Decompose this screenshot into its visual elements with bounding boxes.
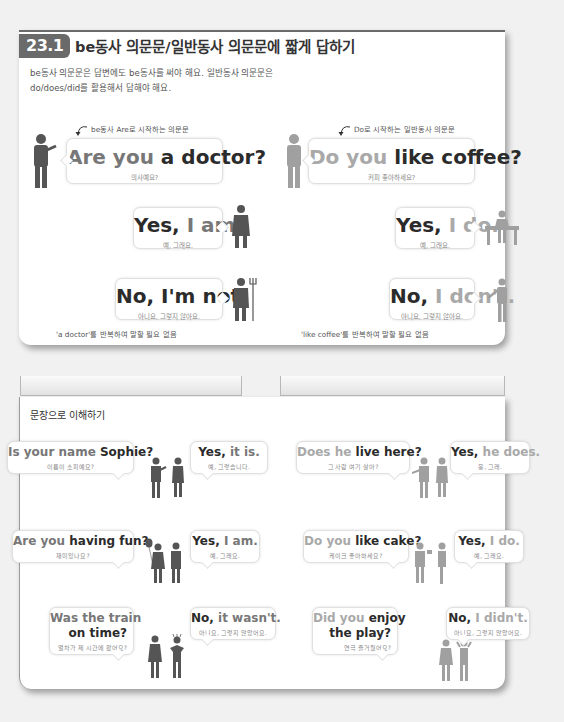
intro-line-1: be동사 의문문은 답변에도 be동사를 써야 해요. 일반동사 의문문은 (30, 66, 273, 81)
question-bubble-be: Are you a doctor? 의사예요? (66, 138, 223, 184)
question-translation: 커피 좋아하세요? (309, 172, 474, 182)
woman-angry-figure-icon (147, 634, 187, 682)
answer-bold: No, (390, 284, 435, 308)
answer-bold: Yes, (134, 213, 187, 237)
answer-no-bubble-be: No, I'm not. 아니요, 그렇지 않아요. (115, 278, 223, 320)
answer-translation: 예, 그렇습니다. (191, 462, 267, 471)
question-bold: enjoy (369, 611, 406, 625)
question-gray: Was the train (50, 611, 141, 625)
question-translation: 의사예요? (67, 172, 222, 182)
question-gray: Do you (309, 145, 394, 169)
practice-question-bubble-1: Is your name Sophie? 이름이 소피예요? (7, 441, 134, 474)
practice-answer-bubble-3: Yes, I am. 예, 그래요. (190, 530, 260, 563)
answer-bold: No, (448, 611, 475, 625)
no-repeat-note-be: 'a doctor'를 반복하여 말할 필요 없음 (56, 329, 177, 339)
man-woman-figure-icon (148, 457, 188, 501)
question-gray: Does he (297, 445, 356, 459)
note-text: 'like coffee'를 반복하여 말할 필요 없음 (301, 330, 429, 339)
section-number-badge: 23.1 (19, 34, 70, 58)
question-bold: on time? (69, 626, 127, 640)
practice-answer-bubble-6: No, I didn't. 아니요, 그렇지 않았어요. (446, 607, 530, 640)
question-gray: Do you (304, 534, 355, 548)
answer-bold: No, (116, 284, 161, 308)
answer-yes-bubble-do: Yes, I do. 예, 그래요. (395, 207, 475, 249)
farmer-figure-icon (231, 276, 257, 324)
do-verb-note: Do로 시작하는 일반동사 의문문 (354, 124, 455, 134)
question-bold: a doctor? (161, 145, 266, 169)
question-gray: Did you (313, 611, 369, 625)
girl-balloon-man-figure-icon (144, 537, 188, 585)
answer-gray: I am. (224, 534, 258, 548)
answer-bold: Yes, (396, 213, 449, 237)
answer-gray: I didn't. (475, 611, 527, 625)
man-cake-woman-figure-icon (412, 542, 452, 586)
practice-question-bubble-2: Does he live here? 그 사람 여기 살아? (296, 441, 410, 474)
practice-answer-bubble-4: Yes, I do. 예, 그래요. (454, 530, 524, 563)
answer-translation: 아니요, 그렇지 않아요. (390, 311, 474, 321)
woman-man-confused-figure-icon (438, 639, 474, 683)
curved-arrow-icon (338, 124, 352, 136)
answer-bold: Yes, (451, 445, 483, 459)
section-title: be동사 의문문/일반동사 의문문에 짧게 답하기 (75, 35, 355, 56)
answer-bold: Yes, (458, 534, 490, 548)
practice-question-bubble-3: Are you having fun? 재미있나요? (12, 530, 134, 563)
man-asking-figure-light-icon (282, 132, 306, 192)
question-gray: Are you (13, 534, 69, 548)
answer-gray: I do. (490, 534, 520, 548)
answer-no-bubble-do: No, I don't. 아니요, 그렇지 않아요. (389, 278, 475, 320)
panel-connector-right (280, 376, 505, 396)
note-text: Do로 시작하는 일반동사 의문문 (354, 125, 455, 134)
question-gray: Are you (67, 145, 161, 169)
intro-line-2: do/does/did를 활용해서 답해야 해요. (30, 81, 273, 96)
question-bubble-do: Do you like coffee? 커피 좋아하세요? (308, 138, 475, 184)
answer-translation: 예, 그래요. (191, 551, 259, 560)
note-text: be동사 Are로 시작하는 의문문 (91, 125, 189, 134)
question-gray: Is your name (8, 445, 100, 459)
man-pouring-figure-icon (484, 278, 514, 324)
grammar-section-panel: 23.1 be동사 의문문/일반동사 의문문에 짧게 답하기 be동사 의문문은… (19, 30, 505, 345)
curved-arrow-icon (75, 124, 89, 136)
practice-answer-bubble-2: Yes, he does. 응, 그래. (450, 441, 530, 474)
answer-translation: 아니요, 그렇지 않아요. (116, 311, 222, 321)
answer-bold: Yes, (198, 445, 230, 459)
answer-gray: he does. (483, 445, 541, 459)
practice-question-bubble-6: Did you enjoy the play? 연극 즐거웠어요? (312, 607, 398, 655)
answer-translation: 응, 그래. (451, 462, 529, 471)
panel-connector-left (20, 376, 242, 396)
section-intro: be동사 의문문은 답변에도 be동사를 써야 해요. 일반동사 의문문은 do… (30, 66, 273, 96)
no-repeat-note-do: 'like coffee'를 반복하여 말할 필요 없음 (301, 329, 429, 339)
question-bold: the play? (329, 626, 391, 640)
question-bold: like coffee? (394, 145, 522, 169)
man-at-table-figure-icon (484, 210, 520, 246)
practice-question-bubble-5: Was the train on time? 열차가 제 시간에 왔어요? (49, 607, 134, 655)
answer-yes-bubble-be: Yes, I am. 예, 그래요. (133, 207, 223, 249)
man-asking-figure-icon (29, 132, 59, 192)
doctor-figure-icon (231, 204, 251, 250)
answer-gray: it wasn't. (218, 611, 281, 625)
be-verb-note: be동사 Are로 시작하는 의문문 (91, 124, 189, 134)
practice-answer-bubble-5: No, it wasn't. 아니요, 그렇지 않았어요. (190, 607, 276, 640)
practice-answer-bubble-1: Yes, it is. 예, 그렇습니다. (190, 441, 268, 474)
practice-question-bubble-4: Do you like cake? 케이크 좋아하세요? (303, 530, 409, 563)
answer-bold: No, (191, 611, 218, 625)
answer-translation: 예, 그래요. (455, 551, 523, 560)
answer-translation: 예, 그래요. (396, 240, 474, 250)
question-bold: having fun? (69, 534, 148, 548)
note-text: 'a doctor'를 반복하여 말할 필요 없음 (56, 330, 177, 339)
man-pointing-woman-figure-icon (412, 457, 452, 501)
question-bold: Sophie? (100, 445, 153, 459)
answer-gray: it is. (230, 445, 260, 459)
practice-panel: 문장으로 이해하기 Is your name Sophie? 이름이 소피예요?… (19, 397, 505, 689)
answer-bold: Yes, (192, 534, 224, 548)
answer-translation: 예, 그래요. (134, 240, 222, 250)
practice-title: 문장으로 이해하기 (30, 407, 105, 422)
